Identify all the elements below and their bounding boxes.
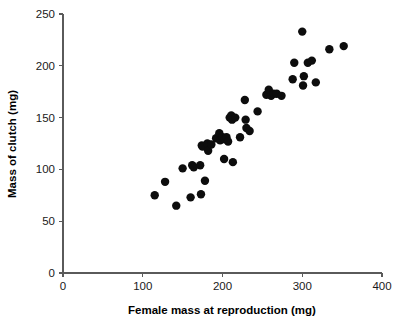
scatter-plot-figure: 050100150200250 0100200300400 Female mas…	[0, 0, 403, 328]
x-tick-label-300: 300	[293, 280, 312, 292]
x-axis-title: Female mass at reproduction (mg)	[128, 304, 316, 316]
data-point	[299, 81, 307, 89]
y-tick-label-200: 200	[36, 60, 55, 72]
data-point	[178, 164, 186, 172]
x-tick-label-400: 400	[372, 280, 391, 292]
data-point	[298, 27, 306, 35]
data-point	[224, 137, 232, 145]
y-tick-label-250: 250	[36, 8, 55, 20]
plot-canvas: 050100150200250 0100200300400 Female mas…	[0, 0, 403, 328]
data-point	[196, 161, 204, 169]
y-tick-label-50: 50	[42, 215, 55, 227]
data-point	[277, 92, 285, 100]
data-point	[312, 78, 320, 86]
data-point	[241, 115, 249, 123]
data-point	[229, 158, 237, 166]
y-tick-label-0: 0	[49, 267, 55, 279]
data-point	[340, 42, 348, 50]
x-tick-label-200: 200	[213, 280, 232, 292]
data-point	[236, 133, 244, 141]
data-point	[220, 155, 228, 163]
data-point	[172, 201, 180, 209]
data-point	[308, 56, 316, 64]
y-tick-label-150: 150	[36, 112, 55, 124]
data-point	[161, 178, 169, 186]
x-tick-label-100: 100	[133, 280, 152, 292]
data-point	[290, 58, 298, 66]
data-point	[201, 177, 209, 185]
y-tick-label-100: 100	[36, 163, 55, 175]
data-point	[253, 107, 261, 115]
data-point	[186, 193, 194, 201]
data-point	[197, 190, 205, 198]
data-point	[245, 127, 253, 135]
y-axis-title: Mass of clutch (mg)	[6, 90, 18, 198]
data-point	[231, 113, 239, 121]
x-tick-label-0: 0	[60, 280, 66, 292]
data-point	[288, 75, 296, 83]
data-point	[325, 45, 333, 53]
data-point	[151, 191, 159, 199]
data-point	[241, 96, 249, 104]
data-point	[300, 72, 308, 80]
